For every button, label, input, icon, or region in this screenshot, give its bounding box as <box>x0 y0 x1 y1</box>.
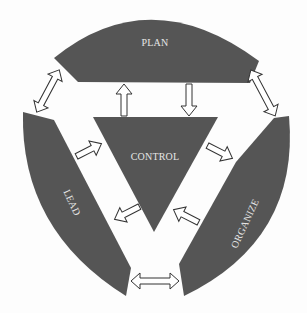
control-to-organize-arrow <box>204 139 236 166</box>
organize-to-control-arrow <box>170 203 202 230</box>
plan-label: PLAN <box>142 37 169 48</box>
control-node: CONTROL <box>93 117 218 232</box>
control-to-plan-arrow <box>116 84 132 116</box>
lead-to-control-arrow <box>73 137 105 164</box>
management-cycle-diagram: PLAN LEAD ORGANIZE CONTROL <box>0 0 307 313</box>
plan-organize-double-arrow <box>244 66 283 119</box>
plan-node: PLAN <box>54 20 259 83</box>
control-label: CONTROL <box>131 151 180 162</box>
plan-to-control-arrow <box>181 84 197 116</box>
lead-organize-double-arrow <box>131 273 179 289</box>
control-to-lead-arrow <box>111 200 143 227</box>
plan-lead-double-arrow <box>30 66 67 116</box>
